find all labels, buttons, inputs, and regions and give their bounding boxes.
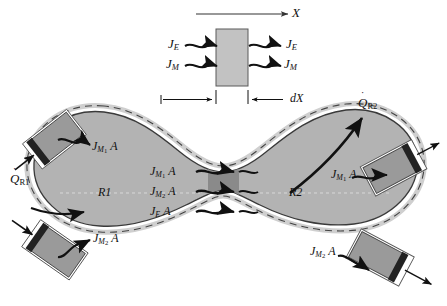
x-axis-label: X <box>292 6 300 19</box>
diagram-graphics <box>0 0 447 306</box>
flux-n2-sub2: 2 <box>162 192 165 199</box>
flux-label-top-right: JM1A <box>331 168 357 183</box>
flux-n2-area: A <box>168 184 175 198</box>
port-bottom-right-outflow-arrow <box>405 270 431 284</box>
outflow-mass-subscript: M <box>290 62 297 72</box>
thickness-label: dX <box>290 92 303 104</box>
outflow-label-energy: JE <box>286 37 297 52</box>
thickness-dimension <box>161 90 283 104</box>
q-r1-subscript: R1 <box>19 177 29 187</box>
flux-tr-sub: M <box>336 173 343 182</box>
flux-label-neck-2: JM2A <box>150 185 176 200</box>
inflow-arrow-mass <box>185 65 217 68</box>
slab-rect <box>216 29 248 86</box>
flux-tl-sub: M <box>97 145 104 154</box>
inflow-label-energy: JE <box>168 37 179 52</box>
flux-bl-area: A <box>111 231 118 245</box>
flux-n3-sub: E <box>155 210 160 219</box>
neck-arrow-3 <box>196 211 234 214</box>
flux-n1-area: A <box>168 164 175 178</box>
q-r2-dot: ˙ <box>361 90 365 101</box>
outflow-arrow-mass <box>249 65 281 68</box>
flux-tr-sub2: 1 <box>343 175 346 182</box>
outflow-energy-subscript: E <box>292 42 297 52</box>
flux-label-bottom-right: JM2A <box>310 245 336 260</box>
flux-tr-area: A <box>349 167 356 181</box>
region-label-r1: R1 <box>98 186 111 198</box>
inflow-arrow-energy <box>185 45 217 48</box>
figure-canvas: X dX JE JM JE JM R1 R2 ˙QR1 ˙QR2 JM1A JM… <box>0 0 447 306</box>
inflow-energy-subscript: E <box>174 42 179 52</box>
flux-br-area: A <box>328 244 335 258</box>
outflow-arrow-energy <box>249 45 281 48</box>
main-body <box>3 100 447 299</box>
flux-n3-area: A <box>163 204 170 218</box>
outflow-label-mass: JM <box>284 57 297 72</box>
heat-flux-r1-label: ˙QR1 <box>10 172 29 187</box>
flux-tl-sub2: 1 <box>104 147 107 154</box>
region-label-r2: R2 <box>289 186 302 198</box>
heat-flux-r2-label: ˙QR2 <box>358 96 377 111</box>
top-control-volume <box>161 14 288 104</box>
flux-bl-sub2: 2 <box>105 239 108 246</box>
flux-n1-sub: M <box>155 170 162 179</box>
flux-tl-area: A <box>110 139 117 153</box>
flux-n2-sub: M <box>155 190 162 199</box>
flux-label-neck-1: JM1A <box>150 165 176 180</box>
flux-br-sub: M <box>315 250 322 259</box>
q-r1-dot: ˙ <box>13 166 17 177</box>
flux-label-top-left: JM1A <box>92 140 118 155</box>
flux-bl-sub: M <box>98 237 105 246</box>
inflow-mass-subscript: M <box>172 62 179 72</box>
flux-label-neck-3: JEA <box>150 205 171 219</box>
q-r2-subscript: R2 <box>367 101 377 111</box>
flux-label-bottom-left: JM2A <box>93 232 119 247</box>
port-bottom-left-inflow-arrow <box>12 220 32 234</box>
flux-n1-sub2: 1 <box>162 172 165 179</box>
flux-br-sub2: 2 <box>322 252 325 259</box>
q-r1-symbol-wrap: ˙Q <box>10 172 19 185</box>
inflow-label-mass: JM <box>166 57 179 72</box>
q-r2-symbol-wrap: ˙Q <box>358 96 367 109</box>
